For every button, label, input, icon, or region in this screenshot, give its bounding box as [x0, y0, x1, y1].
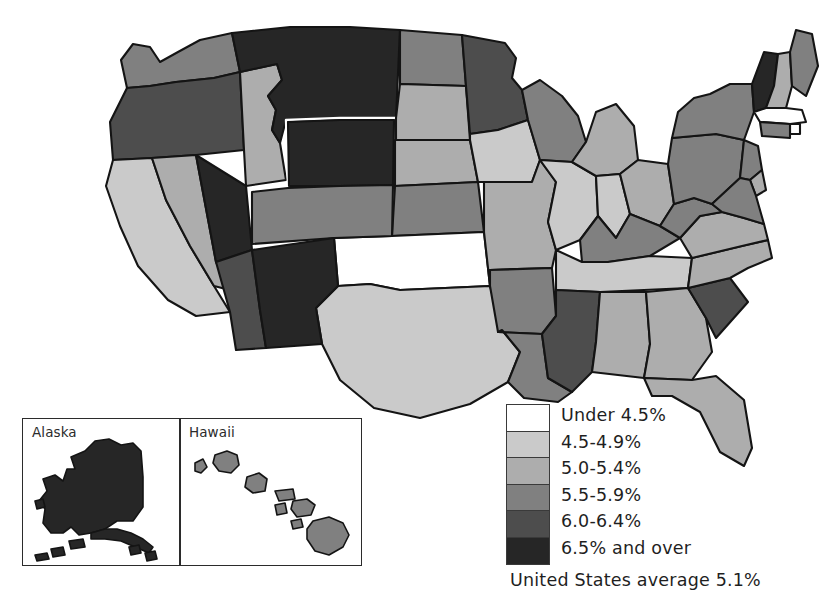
hawaii-big-island[interactable] [307, 517, 349, 555]
state-NY[interactable] [672, 84, 754, 140]
alaska-island-1 [35, 499, 45, 509]
legend-label-3: 5.5-5.9% [561, 482, 691, 509]
legend-swatch-1 [507, 432, 549, 459]
state-ND[interactable] [400, 30, 466, 86]
inset-panel: Alaska Hawaii [22, 418, 362, 566]
legend-swatch-2 [507, 458, 549, 485]
hawaii-lanai[interactable] [275, 503, 287, 515]
alaska-aleutian-3 [35, 553, 49, 561]
hawaii-molokai[interactable] [275, 489, 295, 501]
legend-label-5: 6.5% and over [561, 535, 691, 562]
hawaii-oahu[interactable] [245, 473, 267, 493]
legend-swatch-3 [507, 485, 549, 512]
hawaii-maui[interactable] [291, 499, 315, 517]
hawaii-kauai[interactable] [213, 451, 239, 473]
legend-swatch-4 [507, 511, 549, 538]
alaska-island-2 [129, 545, 141, 555]
state-KS[interactable] [392, 182, 484, 236]
legend-footnote: United States average 5.1% [510, 570, 761, 590]
legend-label-column: Under 4.5% 4.5-4.9% 5.0-5.4% 5.5-5.9% 6.… [561, 402, 691, 561]
state-RI[interactable] [790, 124, 800, 134]
hawaii-kahoolawe[interactable] [291, 519, 303, 529]
states-group [106, 27, 818, 466]
state-CT[interactable] [760, 122, 790, 138]
inset-divider [179, 419, 181, 565]
state-TX[interactable] [316, 284, 520, 418]
alaska-aleutian-2 [51, 547, 65, 557]
alaska-peninsula [91, 529, 153, 553]
legend-label-1: 4.5-4.9% [561, 429, 691, 456]
state-AL[interactable] [592, 292, 650, 378]
state-ME[interactable] [790, 30, 818, 96]
state-NE[interactable] [395, 140, 478, 186]
state-MN[interactable] [462, 35, 528, 134]
state-WY[interactable] [288, 120, 394, 186]
legend-swatch-column [506, 404, 550, 565]
legend-label-4: 6.0-6.4% [561, 508, 691, 535]
legend-swatch-0 [507, 405, 549, 432]
legend-label-2: 5.0-5.4% [561, 455, 691, 482]
map-figure: Alaska Hawaii [0, 0, 824, 596]
hawaii-inset-map [183, 429, 359, 563]
state-AK[interactable] [39, 439, 143, 535]
state-SD[interactable] [396, 84, 470, 140]
alaska-inset-map [29, 429, 177, 563]
alaska-aleutian-1 [69, 539, 85, 549]
legend-label-0: Under 4.5% [561, 402, 691, 429]
state-CO[interactable] [252, 185, 393, 244]
alaska-island-3 [145, 551, 157, 561]
state-OK[interactable] [334, 232, 490, 290]
legend-swatch-5 [507, 538, 549, 565]
hawaii-niihau[interactable] [195, 459, 207, 473]
state-AR[interactable] [490, 268, 556, 334]
